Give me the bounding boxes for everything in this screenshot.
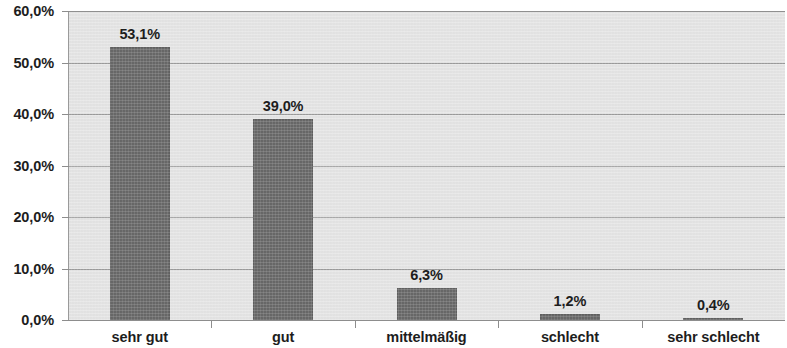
y-axis-tick-label: 50,0% [13,55,54,71]
y-axis-tick-label: 30,0% [13,158,54,174]
x-axis-line [62,320,785,321]
x-axis-tick-mark [211,321,212,328]
x-axis-tick-mark [355,321,356,328]
x-axis-tick-label: schlecht [541,329,599,345]
y-axis-tick-label: 20,0% [13,209,54,225]
bar [397,288,457,320]
y-axis-labels: 0,0%10,0%20,0%30,0%40,0%50,0%60,0% [0,0,62,348]
x-axis-tick-mark [498,321,499,328]
x-axis-tick-label: gut [272,329,294,345]
plot-top-border [68,11,785,12]
y-axis-tick-label: 40,0% [13,106,54,122]
x-axis-tick-label: sehr schlecht [667,329,759,345]
bar [110,47,170,320]
y-axis-tick-label: 0,0% [21,312,54,328]
bar-chart: 0,0%10,0%20,0%30,0%40,0%50,0%60,0% sehr … [0,0,787,348]
y-axis-tick-label: 10,0% [13,261,54,277]
gridline [68,166,785,167]
gridline [68,114,785,115]
y-axis-tick-label: 60,0% [13,3,54,19]
bar-data-label: 53,1% [119,26,160,42]
y-axis-tick-mark [62,63,69,64]
bar-data-label: 0,4% [697,297,730,313]
x-axis-tick-label: mittelmäßig [386,329,466,345]
bar-data-label: 39,0% [263,98,304,114]
bar [253,119,313,320]
bar-data-label: 1,2% [554,293,587,309]
bar-data-label: 6,3% [410,267,443,283]
gridline [68,217,785,218]
y-axis-tick-mark [62,166,69,167]
y-axis-tick-mark [62,217,69,218]
y-axis-tick-mark [62,114,69,115]
x-axis-tick-label: sehr gut [111,329,167,345]
y-axis-tick-mark [62,269,69,270]
gridline [68,63,785,64]
y-axis-tick-mark [62,11,69,12]
x-axis-tick-mark [642,321,643,328]
